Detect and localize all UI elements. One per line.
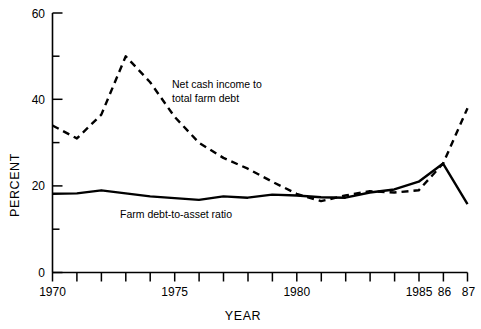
y-tick-label-0: 0 bbox=[38, 266, 45, 280]
x-tick-label-87: 87 bbox=[462, 285, 476, 299]
x-tick-label-1985: 1985 bbox=[406, 285, 433, 299]
series-label-net-cash-income-line1: Net cash income to bbox=[172, 78, 262, 90]
series-label-net-cash-income-line2: total farm debt bbox=[172, 92, 239, 104]
x-axis-title: YEAR bbox=[225, 309, 261, 323]
x-tick-label-1980: 1980 bbox=[283, 285, 310, 299]
x-tick-label-1975: 1975 bbox=[161, 285, 188, 299]
y-tick-label-20: 20 bbox=[32, 179, 46, 193]
line-chart-svg: 60 40 20 0 1970 1975 1980 1985 86 87 PER… bbox=[0, 0, 481, 329]
y-tick-label-40: 40 bbox=[32, 93, 46, 107]
series-label-farm-debt-to-asset: Farm debt-to-asset ratio bbox=[120, 208, 232, 220]
x-tick-label-86: 86 bbox=[438, 285, 452, 299]
y-axis-title: PERCENT bbox=[8, 153, 22, 217]
chart-figure: 60 40 20 0 1970 1975 1980 1985 86 87 PER… bbox=[0, 0, 481, 329]
y-tick-label-60: 60 bbox=[32, 7, 46, 21]
x-tick-label-1970: 1970 bbox=[39, 285, 66, 299]
chart-background bbox=[0, 0, 481, 329]
